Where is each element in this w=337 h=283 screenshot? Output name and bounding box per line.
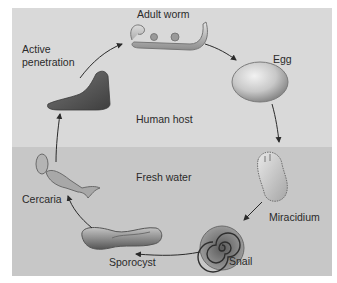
arrow-snail-to-sporocyst xyxy=(136,252,200,255)
arrow-sporocyst-to-cercaria xyxy=(68,196,92,228)
arrow-cercaria-to-foot xyxy=(56,114,60,162)
human-foot-icon xyxy=(48,71,111,110)
egg-label: Egg xyxy=(273,53,292,65)
cercaria-icon xyxy=(36,154,100,198)
fresh-water-label: Fresh water xyxy=(136,171,191,183)
human-host-label: Human host xyxy=(136,113,193,125)
sporocyst-icon xyxy=(82,228,162,250)
cercaria-label: Cercaria xyxy=(22,193,62,205)
egg-icon xyxy=(232,62,288,102)
arrow-egg-to-miracidium xyxy=(272,104,279,142)
arrow-miracidium-to-snail xyxy=(244,202,262,220)
miracidium-label: Miracidium xyxy=(269,211,320,223)
arrow-worm-to-egg xyxy=(205,44,236,60)
adult-worm-label: Adult worm xyxy=(137,8,190,20)
snail-label: Snail xyxy=(229,255,252,267)
sporocyst-label: Sporocyst xyxy=(109,256,156,268)
miracidium-icon xyxy=(258,152,288,201)
active-penetration-label-line2: penetration xyxy=(22,56,75,68)
adult-worm-icon xyxy=(131,22,208,50)
active-penetration-label-line1: Active xyxy=(22,43,51,55)
